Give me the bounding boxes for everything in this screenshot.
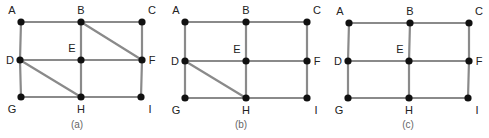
edge-DH — [20, 60, 81, 97]
node-B — [242, 18, 249, 25]
node-label-E: E — [68, 42, 75, 54]
node-F — [138, 56, 145, 63]
node-label-D: D — [6, 54, 14, 66]
graph-b: ABCDEFGHI(b) — [171, 4, 321, 130]
node-label-G: G — [8, 103, 17, 115]
node-H — [242, 94, 249, 101]
edge-AD — [20, 22, 21, 60]
node-C — [138, 18, 145, 25]
graph-a: ABCDEFGHI(a) — [6, 4, 156, 130]
node-label-A: A — [336, 5, 344, 17]
node-label-G: G — [335, 104, 344, 116]
node-E — [405, 57, 412, 64]
edge-DG — [20, 60, 21, 97]
graph-c: ABCDEFGHI(c) — [334, 5, 483, 130]
node-label-C: C — [475, 5, 483, 17]
edge-DH — [185, 61, 246, 98]
node-E — [242, 57, 249, 64]
node-G — [181, 94, 188, 101]
node-D — [344, 57, 351, 64]
node-label-F: F — [476, 55, 483, 67]
edge-BF — [81, 22, 142, 60]
node-F — [465, 57, 472, 64]
node-label-E: E — [396, 43, 403, 55]
node-A — [181, 18, 188, 25]
graph-diagram: ABCDEFGHI(a)ABCDEFGHI(b)ABCDEFGHI(c) — [0, 0, 489, 138]
node-label-D: D — [171, 55, 179, 67]
node-I — [464, 94, 471, 101]
node-label-I: I — [148, 103, 151, 115]
node-label-B: B — [77, 4, 84, 16]
node-label-H: H — [242, 104, 250, 116]
node-label-H: H — [77, 103, 85, 115]
node-label-B: B — [406, 5, 413, 17]
node-label-I: I — [475, 104, 478, 116]
node-D — [181, 57, 188, 64]
node-D — [16, 56, 23, 63]
node-label-D: D — [334, 55, 342, 67]
edge-AD — [348, 23, 349, 61]
node-C — [465, 19, 472, 26]
node-H — [405, 94, 412, 101]
node-label-A: A — [172, 4, 180, 16]
node-label-E: E — [233, 43, 240, 55]
node-E — [77, 56, 84, 63]
node-label-H: H — [405, 104, 413, 116]
edge-FI — [141, 60, 142, 97]
node-H — [77, 93, 84, 100]
node-C — [303, 18, 310, 25]
node-G — [344, 94, 351, 101]
node-A — [17, 18, 24, 25]
node-label-B: B — [242, 4, 249, 16]
node-label-C: C — [313, 4, 321, 16]
edge-BE — [409, 23, 410, 61]
graph-caption: (b) — [235, 119, 247, 130]
edge-FI — [468, 61, 469, 98]
node-B — [406, 19, 413, 26]
graph-caption: (a) — [71, 119, 83, 130]
node-label-A: A — [8, 4, 16, 16]
node-B — [77, 18, 84, 25]
node-label-I: I — [314, 104, 317, 116]
node-I — [137, 93, 144, 100]
node-label-F: F — [314, 55, 321, 67]
node-label-F: F — [149, 54, 156, 66]
node-F — [303, 57, 310, 64]
node-I — [303, 94, 310, 101]
node-label-C: C — [148, 4, 156, 16]
graph-caption: (c) — [402, 119, 414, 130]
node-G — [17, 93, 24, 100]
node-A — [345, 19, 352, 26]
node-label-G: G — [172, 104, 181, 116]
